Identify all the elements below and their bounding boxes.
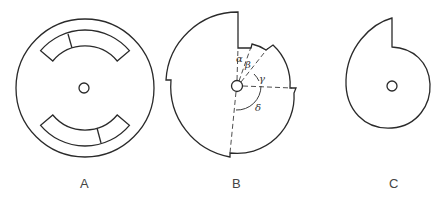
upper-slot: [41, 30, 130, 61]
spiral-outline: [346, 18, 430, 128]
lower-slot: [41, 115, 130, 146]
center-hole-icon: [79, 83, 89, 93]
angle-label-delta: δ: [255, 102, 261, 113]
figure-a-disc: [16, 19, 154, 157]
center-hole-icon: [232, 81, 243, 92]
cam-outline: [166, 12, 296, 157]
figure-label-a: A: [80, 176, 89, 191]
upper-slot-divider: [68, 34, 72, 48]
figure-label-b: B: [232, 176, 241, 191]
radius-line-delta-start: [243, 86, 292, 88]
lower-slot-divider: [97, 128, 101, 143]
angle-label-gamma: γ: [259, 73, 265, 84]
radius-line-delta-end: [230, 92, 236, 153]
figure-b-stepped-cam: α β γ δ: [166, 12, 296, 157]
center-hole-icon: [387, 81, 397, 91]
diagram-canvas: α β γ δ: [0, 0, 441, 201]
angle-label-beta: β: [244, 59, 251, 70]
outer-circle: [16, 19, 154, 157]
angle-label-alpha: α: [236, 53, 243, 64]
figure-label-c: C: [389, 176, 398, 191]
figure-c-spiral-cam: [346, 18, 430, 128]
